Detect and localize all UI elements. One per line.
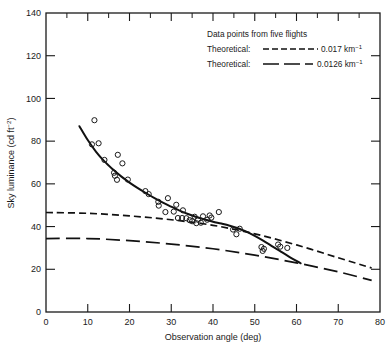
scatter-points xyxy=(89,118,290,254)
data-point xyxy=(120,161,125,166)
x-tick-label-40: 40 xyxy=(208,317,218,327)
data-point xyxy=(115,152,120,157)
x-tick-label-70: 70 xyxy=(333,317,343,327)
legend-line-data-points: Data points from five flights xyxy=(207,29,307,39)
y-tick-label-140: 140 xyxy=(26,8,41,18)
fitted-data-curve xyxy=(79,126,300,263)
data-point xyxy=(92,118,97,123)
y-tick-label-0: 0 xyxy=(36,307,41,317)
x-tick-label-20: 20 xyxy=(124,317,134,327)
y-tick-label-80: 80 xyxy=(31,136,41,146)
tick-labels: 01020304050607080020406080100120140 xyxy=(26,8,385,327)
legend-line-theoretical-0126-value: 0.0126 km−1 xyxy=(317,59,363,69)
data-point xyxy=(163,209,168,214)
sky-luminance-chart: 01020304050607080020406080100120140 Obse… xyxy=(0,0,392,349)
legend-line-theoretical-017-label: Theoretical: xyxy=(207,44,250,54)
data-point xyxy=(156,203,161,208)
y-tick-label-60: 60 xyxy=(31,179,41,189)
chart-legend: Data points from five flights Theoretica… xyxy=(207,29,363,69)
theoretical-curve-0126 xyxy=(46,238,372,280)
x-axis-title: Observation angle (deg) xyxy=(165,332,262,342)
tick-marks xyxy=(46,13,380,312)
x-tick-label-60: 60 xyxy=(291,317,301,327)
data-point xyxy=(165,196,170,201)
x-tick-label-30: 30 xyxy=(166,317,176,327)
data-point xyxy=(174,202,179,207)
x-tick-label-10: 10 xyxy=(83,317,93,327)
legend-line-theoretical-0126-label: Theoretical: xyxy=(207,59,250,69)
data-point xyxy=(285,245,290,250)
x-tick-label-50: 50 xyxy=(250,317,260,327)
y-axis-title: Sky luminance (cd ft−2) xyxy=(5,117,16,208)
figure-container: 01020304050607080020406080100120140 Obse… xyxy=(0,0,392,349)
x-tick-label-0: 0 xyxy=(43,317,48,327)
y-tick-label-20: 20 xyxy=(31,264,41,274)
x-tick-label-80: 80 xyxy=(375,317,385,327)
plot-frame xyxy=(46,13,380,312)
y-tick-label-120: 120 xyxy=(26,51,41,61)
data-point xyxy=(96,141,101,146)
data-point xyxy=(216,209,221,214)
legend-line-theoretical-017-value: 0.017 km−1 xyxy=(321,44,363,54)
y-tick-label-40: 40 xyxy=(31,222,41,232)
y-tick-label-100: 100 xyxy=(26,94,41,104)
data-point xyxy=(171,209,176,214)
axis-frame-rect xyxy=(46,13,380,312)
data-point xyxy=(234,232,239,237)
